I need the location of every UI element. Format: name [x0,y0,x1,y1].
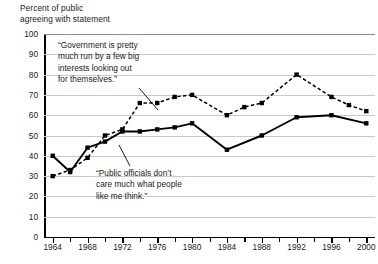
x-tick-1966 [70,237,71,242]
y-tick-label-40: 40 [14,152,38,160]
y-tick-label-100: 100 [14,30,38,38]
y-tick-label-0: 0 [14,233,38,241]
x-tick-1986 [244,237,245,242]
x-tick-label-1980: 1980 [183,243,201,251]
chart-root: Percent of public agreeing with statemen… [0,0,378,264]
x-tick-1998 [349,237,350,242]
x-tick-1970 [105,237,106,242]
y-tick-label-50: 50 [14,132,38,140]
x-tick-1982 [210,237,211,242]
x-tick-label-1984: 1984 [218,243,236,251]
x-tick-label-2000: 2000 [357,243,375,251]
y-tick-label-90: 90 [14,50,38,58]
x-tick-1974 [140,237,141,242]
gridline-50 [44,136,375,137]
x-tick-label-1964: 1964 [43,243,61,251]
x-tick-label-1968: 1968 [78,243,96,251]
y-tick-label-60: 60 [14,111,38,119]
x-tick-label-1988: 1988 [253,243,271,251]
x-tick-1994 [314,237,315,242]
gridline-60 [44,115,375,116]
x-tick-label-1992: 1992 [287,243,305,251]
gridline-30 [44,176,375,177]
chart-axis-title: Percent of public agreeing with statemen… [20,3,110,25]
x-tick-label-1976: 1976 [148,243,166,251]
y-tick-label-80: 80 [14,71,38,79]
gridline-100 [44,34,375,35]
y-tick-label-30: 30 [14,172,38,180]
y-tick-label-70: 70 [14,91,38,99]
x-tick-label-1996: 1996 [322,243,340,251]
gridline-10 [44,217,375,218]
gridline-70 [44,95,375,96]
y-tick-label-10: 10 [14,213,38,221]
y-tick-label-20: 20 [14,192,38,200]
annotation-officials: “Public officials don’t care much what p… [96,168,182,202]
x-tick-1990 [279,237,280,242]
gridline-20 [44,196,375,197]
x-tick-label-1972: 1972 [113,243,131,251]
gridline-40 [44,156,375,157]
x-tick-1978 [175,237,176,242]
annotation-government: “Government is pretty much run by a few … [58,40,139,85]
